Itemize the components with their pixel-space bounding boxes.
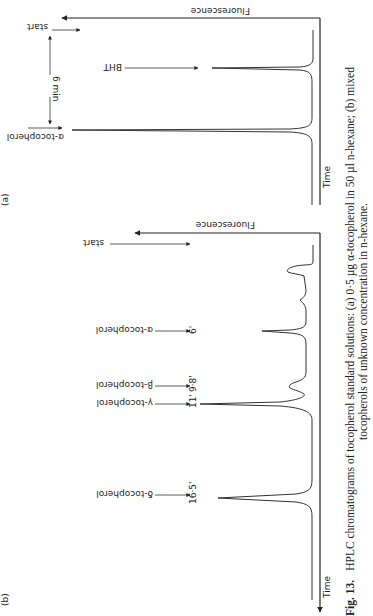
caption-text-1: HPLC chromatograms of tocopherol standar… xyxy=(344,67,357,571)
panel-a-fluorescence-label: Fluorescence xyxy=(190,6,250,16)
panel-b-start-label: start xyxy=(83,238,104,248)
panel-b-peak-beta-time: 9·8' xyxy=(188,375,198,392)
caption-line-1: Fig. 13. HPLC chromatograms of tocophero… xyxy=(339,67,358,616)
panel-a-time-label: Time xyxy=(322,166,332,189)
panel-a: Fluorescence start 6 min BHT α-tocophero… xyxy=(0,6,332,206)
caption-line-2: tocopherols of unknown concentration in … xyxy=(357,203,370,440)
panel-a-start-label: start xyxy=(27,22,48,32)
panel-b-label: (b) xyxy=(0,593,10,606)
panel-a-peak-alpha-label: α-tocopherol xyxy=(7,132,64,142)
panel-b-trace xyxy=(200,245,313,600)
panel-a-trace xyxy=(72,30,313,205)
panel-b-peak-alpha-label: α-tocopherol xyxy=(96,325,153,335)
panel-b-peak-gamma-time: 11' xyxy=(188,394,198,408)
panel-a-label: (a) xyxy=(0,193,10,206)
panel-a-interval-label: 6 min xyxy=(51,76,61,102)
panel-b: Fluorescence start α-tocopherol 6' β-toc… xyxy=(0,220,332,612)
panel-b-time-label: Time xyxy=(322,576,332,599)
figure-caption: Fig. 13. HPLC chromatograms of tocophero… xyxy=(339,67,370,616)
chromatogram-figure: Fluorescence start 6 min BHT α-tocophero… xyxy=(0,0,373,616)
panel-b-peak-alpha-time: 6' xyxy=(188,326,198,334)
panel-b-peak-delta-label: δ-tocopherol xyxy=(96,489,153,499)
caption-prefix: Fig. 13. xyxy=(344,580,357,616)
panel-b-peak-beta-label: β-tocopherol xyxy=(96,380,153,390)
panel-b-peak-gamma-label: γ-tocopherol xyxy=(96,398,153,408)
panel-a-peak-bht-label: BHT xyxy=(103,62,122,72)
panel-b-peak-delta-time: 16·5' xyxy=(188,481,198,504)
panel-b-fluorescence-label: Fluorescence xyxy=(195,220,255,230)
